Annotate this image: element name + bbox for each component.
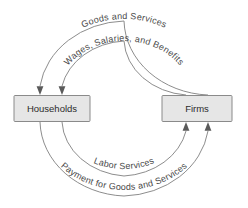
flow-label-labor-services: Labor Services (93, 155, 156, 171)
arrowhead-payment-into-firms (205, 122, 212, 131)
households-box-label: Households (27, 103, 77, 114)
arc-outer-top-right (124, 21, 208, 95)
circular-flow-diagram: Goods and Services Wages, Salaries, and … (0, 0, 248, 208)
arrowhead-goods-into-households (37, 86, 44, 95)
flow-label-wages-salaries-benefits: Wages, Salaries, and Benefits (62, 33, 186, 67)
entity-box-households[interactable]: Households (14, 96, 90, 122)
arrowhead-labor-into-firms (183, 122, 190, 131)
entity-box-firms[interactable]: Firms (162, 96, 232, 122)
flow-diagram-canvas: Goods and Services Wages, Salaries, and … (0, 0, 248, 208)
firms-box-label: Firms (185, 103, 209, 114)
arrowhead-wages-into-households (59, 86, 66, 95)
